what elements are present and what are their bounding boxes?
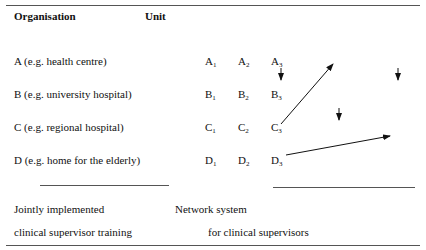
footer-left-line2: clinical supervisor training (14, 226, 132, 238)
footer-left-line1: Jointly implemented (14, 203, 104, 215)
bottom-rule (6, 245, 420, 246)
right-arrow-icon (286, 136, 390, 155)
diagonal-arrow-icon (281, 64, 333, 124)
footer-right-line2: for clinical supervisors (208, 226, 309, 238)
footer-right-line1: Network system (175, 203, 247, 215)
down-arrow-icon (281, 68, 398, 120)
